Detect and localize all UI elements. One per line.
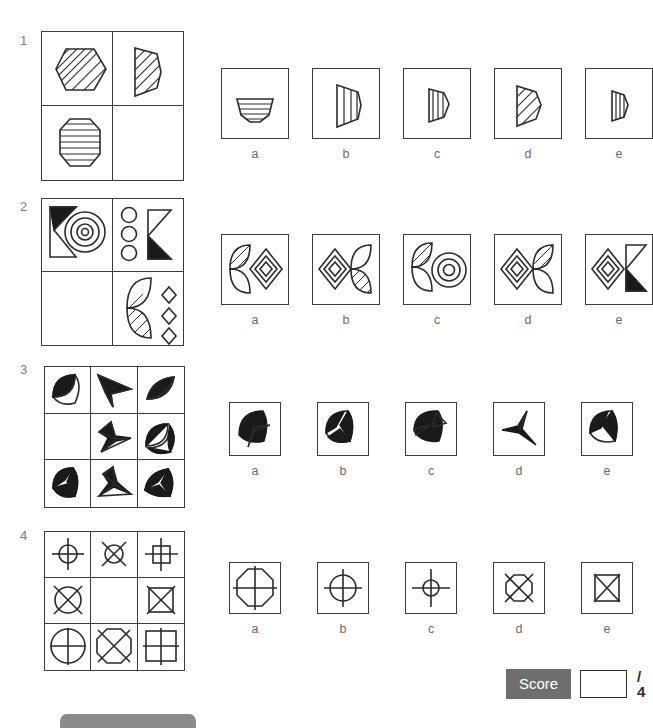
option-e[interactable]: e — [585, 234, 653, 327]
option-c-figure[interactable] — [403, 68, 471, 139]
option-e[interactable]: e — [585, 68, 653, 161]
question-1-matrix — [41, 31, 184, 181]
option-e-label: e — [604, 465, 611, 478]
question-4-matrix — [44, 531, 185, 671]
question-2-options: a b — [221, 234, 653, 327]
option-e-figure[interactable] — [581, 402, 633, 456]
option-a[interactable]: a — [221, 234, 289, 327]
option-b-label: b — [340, 465, 347, 478]
option-a-label: a — [252, 623, 259, 636]
option-b-figure[interactable] — [317, 402, 369, 456]
option-c-label: c — [428, 623, 434, 636]
question-3-options: a b c — [229, 402, 633, 478]
matrix-cell — [138, 624, 184, 670]
option-a[interactable]: a — [229, 562, 281, 636]
matrix-cell — [113, 272, 184, 345]
option-d[interactable]: d — [493, 562, 545, 636]
option-d-label: d — [525, 148, 532, 161]
question-number-2: 2 — [20, 200, 27, 213]
footer-tab-bar — [60, 714, 196, 728]
score-input[interactable] — [580, 670, 627, 698]
matrix-cell — [45, 578, 91, 624]
option-d[interactable]: d — [494, 68, 562, 161]
option-e-figure[interactable] — [585, 68, 653, 139]
question-1-options: a b — [221, 68, 653, 161]
option-b-label: b — [343, 314, 350, 327]
option-e[interactable]: e — [581, 402, 633, 478]
option-c[interactable]: c — [403, 234, 471, 327]
option-d-figure[interactable] — [493, 402, 545, 456]
matrix-cell — [91, 460, 137, 507]
question-4-options: a b c — [229, 562, 633, 636]
score-bar: Score / 4 — [506, 669, 652, 699]
option-c-figure[interactable] — [403, 234, 471, 305]
option-d-figure[interactable] — [494, 68, 562, 139]
option-a-label: a — [252, 148, 259, 161]
option-b[interactable]: b — [317, 402, 369, 478]
matrix-cell — [138, 578, 184, 624]
option-b-figure[interactable] — [312, 234, 380, 305]
option-e-figure[interactable] — [581, 562, 633, 614]
matrix-cell — [45, 624, 91, 670]
matrix-cell — [113, 199, 184, 272]
option-b-figure[interactable] — [317, 562, 369, 614]
question-number-1: 1 — [20, 34, 27, 47]
matrix-cell — [91, 624, 137, 670]
matrix-cell — [138, 367, 184, 414]
option-e-figure[interactable] — [585, 234, 653, 305]
option-e[interactable]: e — [581, 562, 633, 636]
option-d-label: d — [516, 465, 523, 478]
option-e-label: e — [604, 623, 611, 636]
option-b[interactable]: b — [312, 68, 380, 161]
option-d-figure[interactable] — [493, 562, 545, 614]
question-number-3: 3 — [20, 363, 27, 376]
option-c-figure[interactable] — [405, 562, 457, 614]
option-a-label: a — [252, 465, 259, 478]
option-a[interactable]: a — [221, 68, 289, 161]
matrix-cell — [138, 460, 184, 507]
question-number-4: 4 — [20, 529, 27, 542]
option-a-figure[interactable] — [229, 562, 281, 614]
option-e-label: e — [616, 314, 623, 327]
option-d-figure[interactable] — [494, 234, 562, 305]
matrix-cell-empty — [91, 578, 137, 624]
question-3-matrix — [44, 366, 185, 508]
matrix-cell — [91, 532, 137, 578]
matrix-cell — [45, 460, 91, 507]
option-b-label: b — [343, 148, 350, 161]
matrix-cell — [42, 106, 113, 180]
option-c[interactable]: c — [405, 402, 457, 478]
matrix-cell — [45, 367, 91, 414]
option-d[interactable]: d — [494, 234, 562, 327]
question-2-matrix — [41, 198, 184, 346]
matrix-cell-empty — [113, 106, 184, 180]
option-b[interactable]: b — [312, 234, 380, 327]
matrix-cell — [91, 367, 137, 414]
option-c[interactable]: c — [405, 562, 457, 636]
option-a[interactable]: a — [229, 402, 281, 478]
score-label: Score — [506, 669, 571, 699]
matrix-cell — [91, 414, 137, 461]
matrix-cell — [42, 199, 113, 272]
option-a-figure[interactable] — [221, 234, 289, 305]
matrix-cell-empty — [42, 272, 113, 345]
option-a-figure[interactable] — [229, 402, 281, 456]
option-c-label: c — [428, 465, 434, 478]
option-c-figure[interactable] — [405, 402, 457, 456]
matrix-cell — [138, 414, 184, 461]
matrix-cell — [42, 32, 113, 106]
option-b[interactable]: b — [317, 562, 369, 636]
matrix-cell-empty — [45, 414, 91, 461]
option-d[interactable]: d — [493, 402, 545, 478]
option-a-label: a — [252, 314, 259, 327]
option-c-label: c — [434, 314, 440, 327]
option-c[interactable]: c — [403, 68, 471, 161]
matrix-cell — [45, 532, 91, 578]
matrix-cell — [138, 532, 184, 578]
option-b-label: b — [340, 623, 347, 636]
option-b-figure[interactable] — [312, 68, 380, 139]
option-d-label: d — [525, 314, 532, 327]
option-a-figure[interactable] — [221, 68, 289, 139]
score-total: / 4 — [637, 669, 652, 699]
